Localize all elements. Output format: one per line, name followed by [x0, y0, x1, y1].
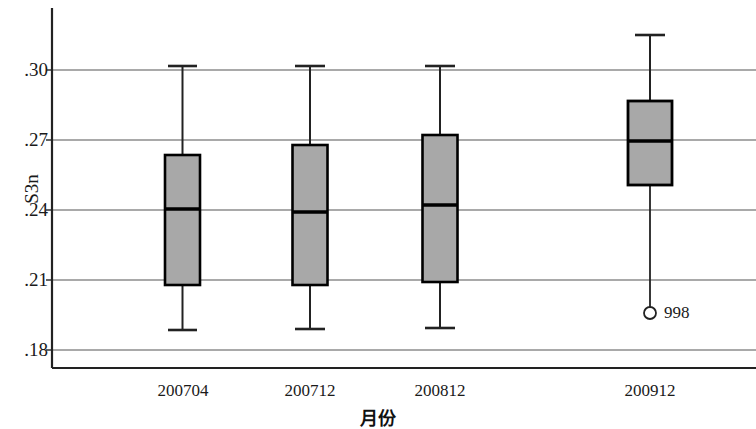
outlier-marker-998: [644, 307, 656, 319]
outlier-label-998: 998: [664, 303, 690, 323]
box-200712: [293, 66, 328, 329]
box-200912: [628, 35, 672, 319]
x-tick-label-200704: 200704: [122, 381, 244, 401]
x-tick-label-200912: 200912: [589, 381, 711, 401]
box-200812: [423, 66, 458, 328]
x-tick-label-200712: 200712: [249, 381, 371, 401]
x-tick-label-200812: 200812: [379, 381, 501, 401]
plot-area: [0, 0, 756, 429]
x-axis-title: 月份: [0, 404, 756, 429]
boxplot-figure: S3n .30 .27 .24 .21 .18: [0, 0, 756, 429]
box-200704: [165, 66, 200, 330]
